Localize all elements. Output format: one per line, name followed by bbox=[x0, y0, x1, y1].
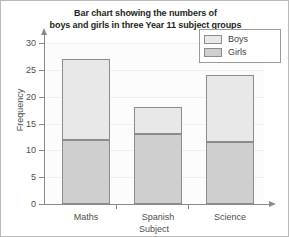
y-tick-25 bbox=[39, 70, 44, 71]
bar-chart-figure: Bar chart showing the numbers of boys an… bbox=[0, 0, 289, 237]
x-tick-label-science: Science bbox=[195, 212, 265, 222]
bar-spanish-boys-segment bbox=[134, 107, 182, 134]
y-axis-title: Frequency bbox=[15, 70, 25, 150]
y-tick-0 bbox=[39, 204, 44, 205]
bar-maths-girls-segment bbox=[62, 140, 110, 204]
legend-item-girls: Girls bbox=[204, 46, 276, 59]
bar-science-boys-segment bbox=[206, 75, 254, 142]
x-tick-label-spanish: Spanish bbox=[123, 212, 193, 222]
legend-label-boys: Boys bbox=[228, 35, 248, 44]
y-tick-label-0: 0 bbox=[0, 200, 36, 209]
y-tick-30 bbox=[39, 43, 44, 44]
x-axis-arrow-icon bbox=[269, 201, 276, 207]
y-axis-line bbox=[44, 34, 45, 205]
y-axis-arrow-icon bbox=[41, 28, 47, 35]
chart-title-line-1: Bar chart showing the numbers of bbox=[1, 7, 289, 19]
y-tick-10 bbox=[39, 150, 44, 151]
legend-item-boys: Boys bbox=[204, 33, 276, 46]
x-axis-title: Subject bbox=[44, 224, 264, 234]
bar-maths bbox=[62, 43, 110, 204]
bar-science bbox=[206, 43, 254, 204]
legend-label-girls: Girls bbox=[228, 48, 247, 57]
legend: Boys Girls bbox=[199, 29, 281, 63]
plot-area bbox=[44, 43, 264, 204]
bar-spanish-girls-segment bbox=[134, 134, 182, 204]
y-tick-20 bbox=[39, 97, 44, 98]
y-tick-5 bbox=[39, 177, 44, 178]
x-tick-2 bbox=[188, 205, 189, 209]
y-tick-15 bbox=[39, 124, 44, 125]
x-tick-label-maths: Maths bbox=[51, 212, 121, 222]
x-axis-line bbox=[44, 204, 270, 205]
x-tick-1 bbox=[116, 205, 117, 209]
bar-spanish bbox=[134, 43, 182, 204]
y-tick-label-30: 30 bbox=[0, 39, 36, 48]
legend-swatch-girls-icon bbox=[204, 48, 222, 57]
legend-swatch-boys-icon bbox=[204, 35, 222, 44]
y-tick-label-5: 5 bbox=[0, 173, 36, 182]
bar-maths-boys-segment bbox=[62, 59, 110, 140]
bar-science-girls-segment bbox=[206, 142, 254, 204]
